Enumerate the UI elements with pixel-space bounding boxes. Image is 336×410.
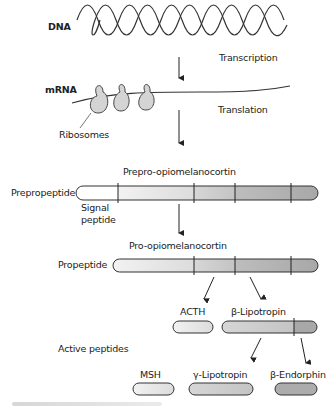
beta-lipotropin-bar xyxy=(222,321,317,333)
peptide-label: peptide xyxy=(81,214,116,225)
figure-caption-cropped xyxy=(12,402,162,406)
arrow-to-acth xyxy=(204,277,214,299)
msh-bar xyxy=(133,383,174,395)
gamma-lipotropin-label: γ-Lipotropin xyxy=(193,369,247,380)
prepro-opiomelanocortin-title: Prepro-opiomelanocortin xyxy=(123,166,236,177)
msh-label: MSH xyxy=(140,369,161,380)
arrow-to-beta-lipotropin xyxy=(250,277,261,299)
prepropeptide-bar xyxy=(76,186,318,200)
ribosomes-label: Ribosomes xyxy=(59,129,109,140)
mrna-label: mRNA xyxy=(45,84,77,95)
transcription-label: Transcription xyxy=(219,52,278,63)
active-peptides-label: Active peptides xyxy=(58,343,129,354)
arrow-to-gamma-lipotropin xyxy=(251,338,261,358)
beta-lipotropin-label: β-Lipotropin xyxy=(231,306,286,317)
dna-label: DNA xyxy=(48,21,71,32)
arrow-to-beta-endorphin xyxy=(301,338,306,363)
gamma-lipotropin-bar xyxy=(189,383,253,395)
ribosome-pointer xyxy=(80,113,91,128)
dna-helix-icon xyxy=(77,5,287,36)
beta-endorphin-label: β-Endorphin xyxy=(270,369,326,380)
propeptide-label: Propeptide xyxy=(58,259,107,270)
translation-label: Translation xyxy=(218,104,268,115)
pro-opiomelanocortin-title: Pro-opiomelanocortin xyxy=(129,240,227,251)
signal-label: Signal xyxy=(81,202,109,213)
beta-endorphin-bar xyxy=(275,383,317,395)
pomc-processing-diagram: DNA Transcription mRNA Translation Ribos… xyxy=(0,0,336,410)
acth-label: ACTH xyxy=(180,306,205,317)
propeptide-bar xyxy=(113,259,318,272)
ribosome-icons xyxy=(90,85,154,114)
diagram-graphics xyxy=(0,0,336,410)
prepropeptide-label: Prepropeptide xyxy=(11,187,75,198)
acth-bar xyxy=(173,321,213,333)
